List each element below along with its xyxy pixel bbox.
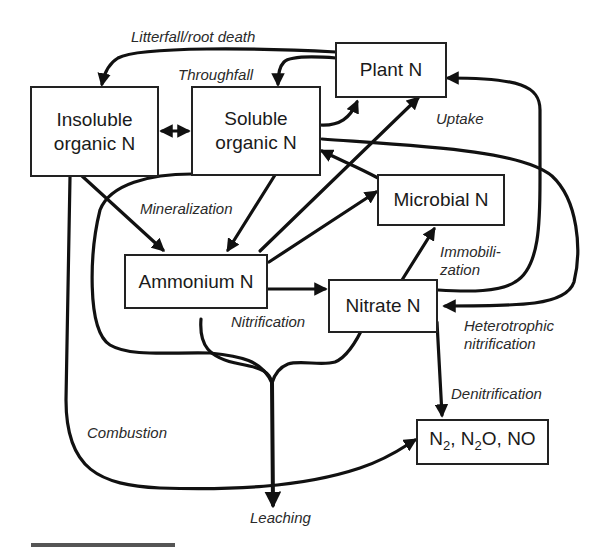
divider-bar bbox=[31, 543, 175, 547]
node-n-gases: N2, N2O, NO bbox=[416, 419, 549, 465]
node-label-line2: organic N bbox=[54, 132, 135, 156]
label-uptake: Uptake bbox=[436, 110, 484, 128]
leaching-arrow bbox=[272, 383, 273, 505]
microbial-to-soluble-arrow bbox=[322, 151, 378, 178]
label-immobilization: Immobili- zation bbox=[440, 243, 501, 279]
throughfall-arrow bbox=[278, 57, 336, 84]
label-litterfall: Litterfall/root death bbox=[131, 28, 255, 46]
node-insoluble-organic-n: Insoluble organic N bbox=[30, 86, 159, 177]
label-denitrification: Denitrification bbox=[451, 385, 542, 403]
node-label-line1: Insoluble bbox=[56, 108, 132, 132]
node-label: Nitrate N bbox=[346, 294, 421, 318]
label-mineralization: Mineralization bbox=[140, 200, 233, 218]
nitrate-immobilization-arrow bbox=[402, 229, 434, 280]
label-leaching: Leaching bbox=[250, 509, 311, 527]
node-soluble-organic-n: Soluble organic N bbox=[191, 86, 321, 176]
label-nitrification: Nitrification bbox=[231, 313, 305, 331]
node-label: N2, N2O, NO bbox=[429, 427, 535, 458]
node-plant-n: Plant N bbox=[335, 42, 447, 98]
node-label-line1: Soluble bbox=[224, 107, 287, 131]
label-heterotrophic-nitrification: Heterotrophic nitrification bbox=[464, 317, 554, 353]
node-microbial-n: Microbial N bbox=[377, 174, 505, 226]
label-throughfall: Throughfall bbox=[178, 66, 253, 84]
node-label-line2: organic N bbox=[215, 131, 296, 155]
soluble-mineralization-arrow bbox=[228, 175, 275, 250]
soluble-to-plant-arrow bbox=[320, 102, 357, 125]
node-nitrate-n: Nitrate N bbox=[328, 279, 438, 333]
node-label: Plant N bbox=[360, 58, 422, 82]
denitrification-arrow bbox=[437, 322, 442, 415]
node-label: Microbial N bbox=[393, 188, 488, 212]
node-label: Ammonium N bbox=[138, 270, 253, 294]
label-combustion: Combustion bbox=[87, 424, 167, 442]
node-ammonium-n: Ammonium N bbox=[124, 254, 268, 309]
